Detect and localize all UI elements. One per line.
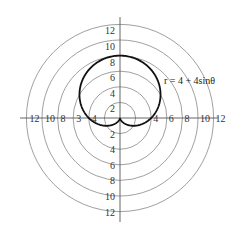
tick-label: 8 — [184, 113, 189, 124]
tick-label: 12 — [105, 207, 115, 218]
tick-label: 8 — [61, 113, 66, 124]
tick-label: 2 — [110, 103, 115, 114]
tick-label: 8 — [110, 175, 115, 186]
equation-label: r = 4 + 4sinθ — [164, 75, 215, 86]
polar-chart: 121086422468101212108344681012 r = 4 + 4… — [0, 0, 235, 238]
tick-label: 10 — [200, 113, 210, 124]
tick-label: 12 — [105, 25, 115, 36]
tick-label: 12 — [29, 113, 39, 124]
tick-label: 4 — [153, 113, 158, 124]
tick-label: 6 — [169, 113, 174, 124]
tick-label: 10 — [105, 41, 115, 52]
tick-label: 10 — [105, 191, 115, 202]
tick-label: 4 — [110, 88, 115, 99]
tick-label: 6 — [110, 72, 115, 83]
tick-label: 6 — [110, 160, 115, 171]
tick-label: 4 — [110, 144, 115, 155]
tick-label: 10 — [45, 113, 55, 124]
tick-label: 2 — [110, 129, 115, 140]
tick-label: 4 — [92, 113, 97, 124]
tick-label: 3 — [76, 113, 81, 124]
tick-label: 8 — [110, 57, 115, 68]
tick-label: 12 — [216, 113, 226, 124]
